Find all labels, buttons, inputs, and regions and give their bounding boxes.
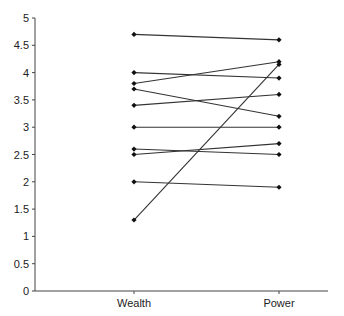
slope-line: [134, 149, 279, 154]
series-s2: [131, 70, 281, 81]
diamond-marker: [276, 75, 281, 80]
slope-line: [134, 73, 279, 78]
diamond-marker: [131, 146, 136, 151]
y-tick-label: 5: [23, 12, 29, 24]
series-s5: [131, 92, 281, 108]
slope-line: [134, 144, 279, 155]
slope-chart: 00.511.522.533.544.55 WealthPower: [0, 0, 344, 316]
series-s7: [131, 146, 281, 157]
diamond-marker: [131, 179, 136, 184]
series-s8: [131, 141, 281, 157]
y-tick-label: 4: [23, 67, 29, 79]
slope-line: [134, 94, 279, 105]
y-tick-label: 4.5: [14, 39, 29, 51]
y-tick-label: 3: [23, 121, 29, 133]
slope-line: [134, 64, 279, 220]
slope-line: [134, 34, 279, 39]
x-tick-label-wealth: Wealth: [117, 297, 151, 309]
diamond-marker: [131, 32, 136, 37]
diamond-marker: [276, 185, 281, 190]
diamond-marker: [131, 125, 136, 130]
y-axis: 00.511.522.533.544.55: [14, 12, 35, 297]
y-tick-label: 0.5: [14, 258, 29, 270]
y-tick-label: 2.5: [14, 149, 29, 161]
series-s3: [131, 59, 281, 86]
series-s1: [131, 32, 281, 43]
y-tick-label: 0: [23, 285, 29, 297]
x-tick-label-power: Power: [263, 297, 295, 309]
slope-line: [134, 62, 279, 84]
diamond-marker: [131, 152, 136, 157]
diamond-marker: [131, 81, 136, 86]
diamond-marker: [276, 37, 281, 42]
slope-line: [134, 89, 279, 116]
slope-line: [134, 182, 279, 187]
y-tick-label: 2: [23, 176, 29, 188]
x-axis: WealthPower: [35, 291, 328, 309]
diamond-marker: [131, 103, 136, 108]
diamond-marker: [131, 70, 136, 75]
series-s6: [131, 125, 281, 130]
diamond-marker: [276, 125, 281, 130]
diamond-marker: [276, 141, 281, 146]
series-s4: [131, 86, 281, 119]
series-s10: [131, 62, 281, 223]
diamond-marker: [276, 92, 281, 97]
y-tick-label: 1: [23, 230, 29, 242]
series-s9: [131, 179, 281, 190]
y-tick-label: 1.5: [14, 203, 29, 215]
series-lines: [131, 32, 281, 223]
diamond-marker: [276, 114, 281, 119]
y-tick-label: 3.5: [14, 94, 29, 106]
diamond-marker: [276, 152, 281, 157]
diamond-marker: [131, 86, 136, 91]
